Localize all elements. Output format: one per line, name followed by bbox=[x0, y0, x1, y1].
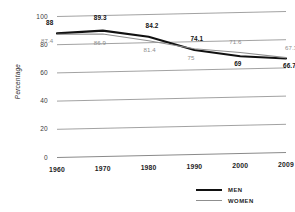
data-label: 84.2 bbox=[146, 22, 159, 29]
legend-item-women: WOMEN bbox=[196, 195, 288, 206]
gridline bbox=[57, 40, 286, 45]
y-axis-tick-label: 20 bbox=[22, 125, 48, 132]
gridline bbox=[57, 124, 286, 129]
gridline bbox=[57, 68, 286, 73]
x-axis-tick-label: 2000 bbox=[223, 162, 257, 169]
x-axis-tick-label: 2009 bbox=[269, 161, 295, 168]
x-axis-tick-label: 1990 bbox=[177, 163, 211, 170]
series-line-group bbox=[57, 31, 286, 59]
series-line-men bbox=[57, 31, 286, 59]
legend-line-swatch-women bbox=[196, 200, 222, 201]
data-label: 74.1 bbox=[190, 35, 203, 42]
gridline bbox=[57, 96, 286, 101]
legend: MEN WOMEN bbox=[196, 184, 288, 206]
legend-label-men: MEN bbox=[228, 187, 243, 193]
data-label: 75 bbox=[187, 54, 194, 61]
series-line-women bbox=[57, 34, 286, 58]
gridline bbox=[57, 153, 286, 158]
y-axis-tick-label: 100 bbox=[22, 13, 48, 20]
data-label: 66.7 bbox=[283, 62, 295, 69]
x-axis-tick-label: 1960 bbox=[40, 166, 74, 173]
line-chart: Percentage 020406080100 1960197019801990… bbox=[0, 0, 295, 212]
data-label: 87.4 bbox=[41, 37, 53, 44]
x-axis-tick-label: 1970 bbox=[86, 165, 120, 172]
data-label: 89.3 bbox=[94, 14, 107, 21]
data-label: 81.4 bbox=[144, 46, 156, 53]
y-axis-title: Percentage bbox=[14, 47, 21, 117]
legend-line-swatch-men bbox=[196, 189, 222, 191]
plot-area bbox=[0, 0, 295, 212]
x-axis-tick-label: 1980 bbox=[132, 164, 166, 171]
y-axis-tick-label: 60 bbox=[22, 69, 48, 76]
data-label: 71.6 bbox=[229, 38, 241, 45]
y-axis-tick-label: 0 bbox=[22, 154, 48, 161]
data-label: 67.3 bbox=[285, 44, 295, 51]
y-axis-tick-label: 40 bbox=[22, 97, 48, 104]
data-label: 86.9 bbox=[94, 39, 106, 46]
gridline-group bbox=[57, 12, 286, 158]
data-label: 88 bbox=[46, 19, 53, 26]
data-label: 69 bbox=[234, 60, 241, 67]
gridline bbox=[57, 12, 286, 17]
legend-label-women: WOMEN bbox=[228, 198, 254, 204]
legend-item-men: MEN bbox=[196, 184, 288, 195]
